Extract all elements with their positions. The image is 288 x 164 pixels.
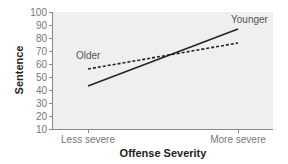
y-tick-30: 30 [36, 98, 48, 109]
y-tick-70: 70 [36, 46, 48, 57]
y-tick-50: 50 [36, 72, 48, 83]
y-tick-labels: 100 90 80 70 60 50 40 30 20 10 [30, 7, 47, 135]
series-label-older: Older [76, 50, 101, 61]
y-tick-100: 100 [30, 7, 47, 18]
y-axis-title: Sentence [13, 46, 25, 95]
x-tick-label-more: More severe [210, 134, 266, 145]
y-tick-40: 40 [36, 85, 48, 96]
y-tick-20: 20 [36, 111, 48, 122]
series-label-younger: Younger [231, 14, 269, 25]
y-tick-60: 60 [36, 59, 48, 70]
y-tick-90: 90 [36, 20, 48, 31]
plot-area [53, 12, 273, 129]
x-axis-title: Offense Severity [120, 147, 208, 159]
x-tick-label-less: Less severe [61, 134, 115, 145]
chart: 100 90 80 70 60 50 40 30 20 10 Less seve… [0, 0, 288, 164]
y-tick-80: 80 [36, 33, 48, 44]
y-tick-10: 10 [36, 124, 48, 135]
